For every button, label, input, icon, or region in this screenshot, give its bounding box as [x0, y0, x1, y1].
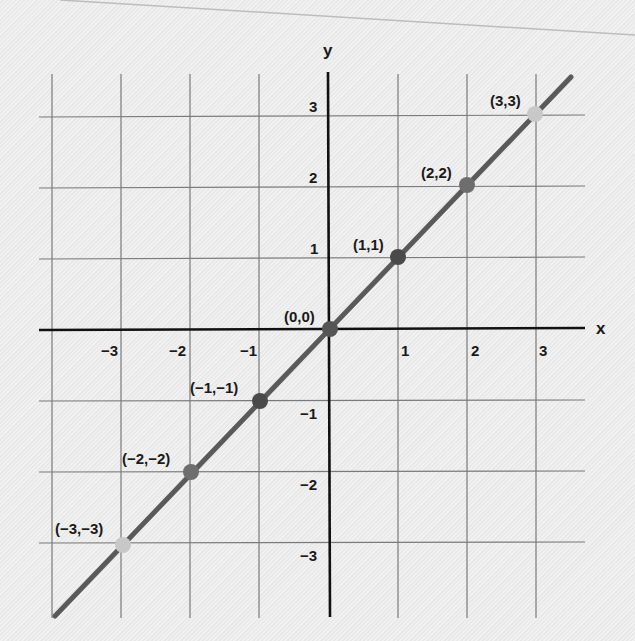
y-tick-labels: 3 2 1 −1 −2 −3	[300, 98, 318, 564]
x-tick-neg2: −2	[169, 342, 186, 359]
point-1-1	[390, 249, 406, 265]
point-3-3	[527, 106, 543, 122]
x-tick-labels: −3 −2 −1 1 2 3	[101, 342, 547, 359]
point-label-2-2: (2,2)	[421, 164, 452, 181]
point-origin	[322, 321, 338, 337]
point-neg2-neg2	[183, 464, 199, 480]
line-y-equals-x	[55, 77, 571, 616]
y-tick-2: 2	[309, 169, 317, 186]
x-tick-3: 3	[539, 342, 547, 359]
y-tick-neg1: −1	[300, 405, 317, 422]
y-axis-label: y	[323, 41, 333, 60]
y-tick-3: 3	[309, 98, 317, 115]
point-label-origin: (0,0)	[284, 308, 315, 325]
x-tick-1: 1	[401, 342, 409, 359]
point-neg1-neg1	[252, 393, 268, 409]
point-label-1-1: (1,1)	[353, 236, 384, 253]
point-labels: (−3,−3) (−2,−2) (−1,−1) (0,0) (1,1) (2,2…	[55, 92, 521, 537]
grid-vertical-lines	[52, 74, 536, 618]
point-label-3-3: (3,3)	[490, 92, 521, 109]
y-axis	[328, 72, 330, 617]
y-tick-1: 1	[310, 240, 318, 257]
point-label-neg1-neg1: (−1,−1)	[190, 379, 238, 396]
y-tick-neg3: −3	[300, 547, 317, 564]
page-edge-line	[60, 0, 635, 35]
x-axis-label: x	[596, 319, 606, 338]
point-label-neg3-neg3: (−3,−3)	[55, 520, 103, 537]
point-neg3-neg3	[115, 537, 131, 553]
x-tick-2: 2	[471, 342, 479, 359]
point-label-neg2-neg2: (−2,−2)	[122, 450, 170, 467]
x-tick-neg1: −1	[240, 342, 257, 359]
x-tick-neg3: −3	[101, 342, 118, 359]
y-tick-neg2: −2	[300, 476, 317, 493]
coordinate-plane: y x −3 −2 −1 1 2 3 3 2 1 −1 −2 −3 (−3,−3…	[0, 0, 635, 641]
point-2-2	[459, 177, 475, 193]
